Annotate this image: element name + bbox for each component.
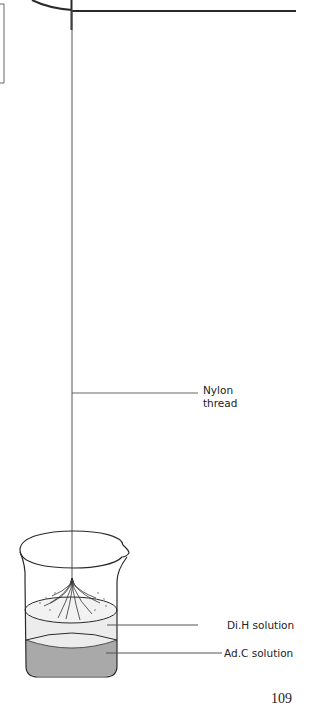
- upper-layer-label: Di.H solution: [227, 619, 294, 632]
- winding-rod-curve: [32, 0, 72, 10]
- beaker-rim: [20, 531, 129, 568]
- nylon-thread-label: Nylon thread: [203, 384, 237, 410]
- nylon-rope-trick-diagram: [0, 0, 319, 716]
- upper-liquid-surface: [25, 597, 117, 623]
- frame-box-edge: [0, 4, 4, 83]
- beaker: [20, 531, 129, 677]
- page-number: 109: [271, 691, 292, 707]
- nylon-thread-label-line-1: Nylon: [203, 384, 237, 397]
- lower-layer-label: Ad.C solution: [224, 647, 293, 660]
- nylon-thread-label-line-2: thread: [203, 397, 237, 410]
